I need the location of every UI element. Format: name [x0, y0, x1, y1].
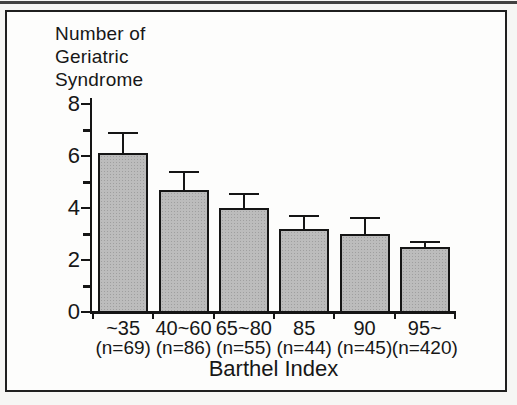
- error-bar-cap: [108, 132, 138, 134]
- error-bar-line: [303, 216, 305, 229]
- error-bar-cap: [289, 215, 319, 217]
- y-tick-major: [81, 259, 90, 261]
- figure-page: Number of Geriatric Syndrome 02468~35(n=…: [0, 0, 517, 405]
- bar: [400, 247, 450, 312]
- y-tick-minor: [83, 181, 90, 184]
- error-bar-line: [243, 194, 245, 208]
- bar: [98, 153, 148, 312]
- y-tick-label: 2: [10, 247, 80, 273]
- y-tick-label: 6: [10, 143, 80, 169]
- y-tick-major: [81, 207, 90, 209]
- bar: [219, 208, 269, 312]
- error-bar-cap: [229, 193, 259, 195]
- x-axis-title: Barthel Index: [92, 356, 455, 382]
- y-tick-label: 4: [10, 195, 80, 221]
- y-axis-title-line2: Geriatric: [55, 45, 146, 68]
- error-bar-line: [364, 218, 366, 234]
- error-bar-line: [183, 172, 185, 190]
- bar: [279, 229, 329, 312]
- n-label: (n=420): [380, 338, 470, 357]
- y-tick-major: [81, 311, 90, 313]
- y-tick-minor: [83, 233, 90, 236]
- y-tick-minor: [83, 129, 90, 132]
- category-label: 95~: [380, 318, 470, 338]
- y-tick-major: [81, 103, 90, 105]
- y-tick-label: 8: [10, 91, 80, 117]
- y-tick-label: 0: [10, 299, 80, 325]
- y-axis-title: Number of Geriatric Syndrome: [55, 22, 146, 91]
- error-bar-cap: [410, 241, 440, 243]
- y-axis-title-line1: Number of: [55, 22, 146, 45]
- bar: [159, 190, 209, 312]
- error-bar-cap: [350, 217, 380, 219]
- y-axis-line: [90, 98, 92, 314]
- top-rule: [0, 1, 517, 4]
- y-tick-minor: [83, 285, 90, 288]
- error-bar-cap: [169, 171, 199, 173]
- error-bar-line: [122, 133, 124, 154]
- y-tick-major: [81, 155, 90, 157]
- bar: [340, 234, 390, 312]
- y-axis-title-line3: Syndrome: [55, 68, 146, 91]
